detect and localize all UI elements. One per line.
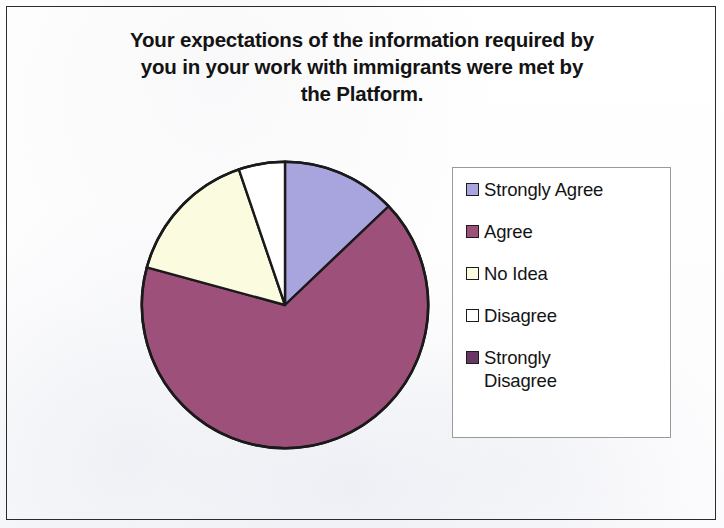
legend-swatch-icon: [466, 267, 479, 280]
legend-item-label: Strongly Agree: [484, 178, 603, 201]
legend-item-label: Agree: [484, 220, 533, 243]
legend-item-label: No Idea: [484, 262, 548, 285]
legend-item: No Idea: [466, 262, 670, 285]
legend-swatch-icon: [466, 183, 479, 196]
legend-item: Agree: [466, 220, 670, 243]
chart-title-line-1: Your expectations of the information req…: [62, 26, 662, 53]
pie-slice-group: [142, 162, 428, 448]
legend-swatch-icon: [466, 225, 479, 238]
legend-item-label: Strongly Disagree: [484, 346, 557, 392]
pie-chart: [138, 155, 438, 455]
chart-title: Your expectations of the information req…: [62, 26, 662, 107]
chart-title-line-3: the Platform.: [62, 80, 662, 107]
legend-item: Strongly Disagree: [466, 346, 670, 392]
legend-item: Disagree: [466, 304, 670, 327]
scanned-chart-page: Your expectations of the information req…: [0, 0, 724, 528]
legend-item-list: Strongly AgreeAgreeNo IdeaDisagreeStrong…: [453, 168, 670, 392]
legend-swatch-icon: [466, 309, 479, 322]
pie-chart-svg: [138, 155, 438, 455]
legend: Strongly AgreeAgreeNo IdeaDisagreeStrong…: [452, 167, 671, 438]
legend-item: Strongly Agree: [466, 178, 670, 201]
legend-swatch-icon: [466, 351, 479, 364]
legend-item-label: Disagree: [484, 304, 557, 327]
chart-title-line-2: you in your work with immigrants were me…: [62, 53, 662, 80]
